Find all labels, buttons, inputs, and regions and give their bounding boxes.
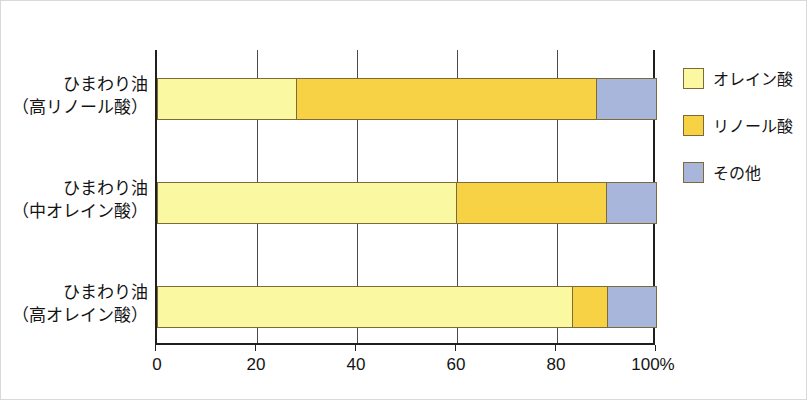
legend-item-oleic[interactable]: オレイン酸 [683,66,793,90]
bar-row-2 [157,286,653,328]
tick-mark-60 [455,345,456,351]
x-axis-tick-label-100: 100% [631,355,674,375]
category-label-2: ひまわり油 （高オレイン酸） [0,282,148,328]
tick-mark-80 [555,345,556,351]
legend-label-oleic: オレイン酸 [713,66,793,90]
legend-swatch-other-icon [683,162,704,183]
bar-row-1 [157,182,653,224]
bar-row-0 [157,78,653,120]
legend-swatch-linoleic-icon [683,115,704,136]
tick-mark-0 [155,345,156,351]
bar-segment-0-oleic[interactable] [157,78,297,120]
category-label-2-line2: （高オレイン酸） [0,305,148,328]
category-label-1: ひまわり油 （中オレイン酸） [0,178,148,224]
bar-segment-1-oleic[interactable] [157,182,457,224]
category-label-1-line1: ひまわり油 [63,179,148,198]
x-axis-tick-label-40: 40 [347,355,366,375]
bar-segment-2-oleic[interactable] [157,286,573,328]
bar-segment-2-other[interactable] [607,286,657,328]
x-axis-tick-label-80: 80 [547,355,566,375]
x-axis-tick-label-60: 60 [447,355,466,375]
chart-legend: オレイン酸 リノール酸 その他 [683,66,793,184]
x-axis-tick-label-20: 20 [247,355,266,375]
stacked-bar-0 [157,78,657,120]
category-label-0-line1: ひまわり油 [63,75,148,94]
tick-mark-40 [355,345,356,351]
category-label-1-line2: （中オレイン酸） [0,201,148,224]
stacked-bar-2 [157,286,657,328]
legend-item-other[interactable]: その他 [683,160,793,184]
legend-item-linoleic[interactable]: リノール酸 [683,113,793,137]
category-label-0: ひまわり油 （高リノール酸） [0,74,148,120]
bar-segment-1-other[interactable] [606,182,657,224]
legend-swatch-oleic-icon [683,68,704,89]
tick-mark-100 [655,345,656,351]
tick-mark-20 [255,345,256,351]
legend-label-linoleic: リノール酸 [713,113,793,137]
stacked-bar-1 [157,182,657,224]
category-label-2-line1: ひまわり油 [63,283,148,302]
x-axis-tick-label-0: 0 [152,355,161,375]
stacked-bar-chart: ひまわり油 （高リノール酸） ひまわり油 （中オレイン酸） ひまわり油 （高オレ… [0,0,807,400]
bar-segment-2-linoleic[interactable] [572,286,608,328]
bar-segment-0-other[interactable] [596,78,657,120]
bar-segment-0-linoleic[interactable] [296,78,597,120]
legend-label-other: その他 [713,160,761,184]
bar-segment-1-linoleic[interactable] [456,182,607,224]
category-label-0-line2: （高リノール酸） [0,97,148,120]
plot-area [155,50,655,345]
